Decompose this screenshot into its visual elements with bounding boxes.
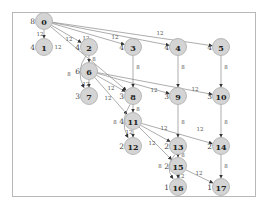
node-id-label: 1: [41, 43, 47, 53]
edge-weight-2-7: 8: [67, 71, 71, 77]
edge-weight-0-4: 12: [112, 34, 119, 40]
node-15: 152: [164, 158, 186, 175]
edge-weight-11-14: 12: [197, 126, 204, 132]
node-id-label: 15: [172, 162, 183, 172]
node-side-value: 2: [207, 142, 212, 151]
node-9: 93: [164, 88, 186, 105]
edge-weight-11-13: 12: [161, 125, 168, 131]
edge-weight-15-17: 12: [196, 170, 203, 176]
edge-weight-11-15: 12: [149, 140, 156, 146]
edge-weight-14-17: 8: [224, 163, 228, 169]
node-id-label: 5: [218, 43, 224, 53]
node-12: 122: [119, 138, 141, 155]
node-5: 54: [207, 39, 229, 56]
node-id-label: 7: [86, 92, 92, 102]
node-side-value: 4: [119, 43, 124, 52]
edge-weight-0-2: 12: [66, 36, 73, 42]
edge-weight-4-9: 8: [181, 64, 185, 70]
node-3: 34: [119, 39, 141, 56]
node-id-label: 16: [172, 183, 184, 193]
edge-weight-3-8: 8: [136, 64, 140, 70]
node-side-value: 4: [30, 43, 35, 52]
node-6: 66: [75, 63, 97, 80]
edge-weight-11-12: 12: [126, 129, 133, 135]
node-id-label: 0: [41, 17, 47, 27]
node-side-value: 2: [164, 162, 169, 171]
node-16: 161: [164, 179, 186, 196]
node-id-label: 17: [215, 183, 226, 193]
node-side-value: 4: [75, 43, 80, 52]
edge-weight-6-9: 12: [151, 87, 158, 93]
edge-weight-6-11: 12: [105, 95, 112, 101]
edge-weight-8-11: 8: [136, 106, 140, 112]
node-7: 73: [75, 88, 97, 105]
node-id-label: 14: [215, 142, 227, 152]
node-id-label: 10: [215, 92, 227, 102]
node-side-value: 4: [119, 117, 124, 126]
node-id-label: 6: [86, 67, 92, 77]
edge-weight-6-8: 12: [108, 85, 115, 91]
edge-weight-10-14: 8: [224, 119, 228, 125]
edge-weight-0-8: 12: [55, 44, 62, 50]
edge-weight-8-12: 8: [113, 119, 117, 125]
node-side-value: 2: [119, 142, 124, 151]
node-11: 114: [119, 113, 141, 130]
node-id-label: 3: [130, 43, 136, 53]
node-id-label: 2: [86, 43, 92, 53]
nodes-layer: 0814243444546673839310311412213214215216…: [30, 13, 229, 196]
edge-weight-0-1: 12: [37, 31, 44, 37]
node-side-value: 3: [164, 92, 169, 101]
edge-weight-6-7: 12: [83, 81, 90, 87]
node-side-value: 1: [207, 183, 212, 192]
node-id-label: 9: [175, 92, 181, 102]
node-0: 08: [30, 13, 52, 30]
node-14: 142: [207, 138, 229, 155]
directed-graph: 1212121212128888812121212128888121212128…: [0, 0, 271, 210]
node-4: 44: [164, 39, 186, 56]
node-side-value: 1: [164, 183, 169, 192]
edge-weight-0-5: 12: [157, 30, 164, 36]
node-side-value: 8: [30, 17, 35, 26]
node-side-value: 3: [75, 92, 80, 101]
node-10: 103: [207, 88, 229, 105]
node-id-label: 4: [175, 43, 181, 53]
edge-weight-13-16: 8: [158, 163, 162, 169]
node-side-value: 3: [207, 92, 212, 101]
node-id-label: 13: [172, 142, 184, 152]
edge-weight-9-13: 8: [181, 119, 185, 125]
node-side-value: 6: [75, 67, 80, 76]
node-side-value: 4: [207, 43, 212, 52]
node-side-value: 4: [164, 43, 169, 52]
node-id-label: 12: [127, 142, 138, 152]
node-id-label: 8: [130, 92, 136, 102]
edge-weight-2-6: 8: [92, 56, 96, 62]
edge-weight-5-10: 8: [224, 64, 228, 70]
node-side-value: 2: [164, 142, 169, 151]
node-id-label: 11: [127, 117, 138, 127]
node-17: 171: [207, 179, 229, 196]
edge-weight-6-10: 12: [192, 86, 199, 92]
node-1: 14: [30, 39, 52, 56]
node-side-value: 3: [119, 92, 124, 101]
